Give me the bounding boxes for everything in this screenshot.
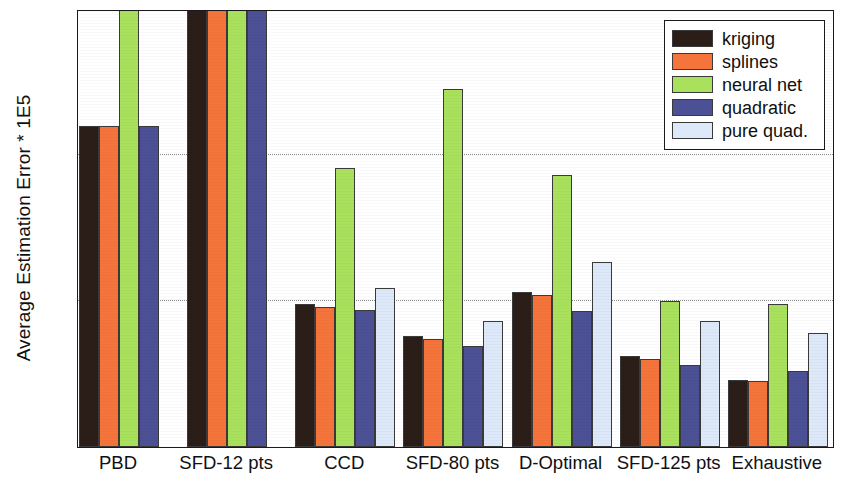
bar	[640, 359, 660, 447]
bar	[423, 339, 443, 447]
legend-swatch	[672, 76, 713, 93]
bar	[355, 310, 375, 447]
x-tick-label: SFD-80 pts	[406, 452, 500, 474]
bar	[483, 321, 503, 447]
bar-chart-figure: Average Estimation Error * 1E5 00.511.5 …	[0, 0, 842, 477]
bar	[99, 126, 119, 447]
bar	[79, 126, 99, 447]
bar	[808, 333, 828, 447]
legend-label: kriging	[722, 30, 775, 48]
legend: krigingsplinesneural netquadraticpure qu…	[664, 20, 825, 150]
bar	[680, 365, 700, 447]
x-tick-label: SFD-125 pts	[617, 452, 721, 474]
bar	[187, 10, 207, 447]
bar	[335, 168, 355, 447]
legend-swatch	[672, 99, 713, 116]
x-tick-label: D-Optimal	[519, 452, 602, 474]
bar	[620, 356, 640, 447]
bar	[572, 311, 592, 447]
bar	[512, 292, 532, 447]
bar	[552, 175, 572, 447]
legend-swatch	[672, 122, 713, 139]
bar	[748, 381, 768, 447]
bar	[768, 304, 788, 447]
bar	[660, 301, 680, 447]
bar	[375, 288, 395, 447]
legend-item: quadratic	[672, 96, 817, 119]
legend-label: quadratic	[722, 99, 796, 117]
bar	[700, 321, 720, 447]
bar	[403, 336, 423, 447]
legend-item: splines	[672, 50, 817, 73]
legend-swatch	[672, 30, 713, 47]
y-axis-title: Average Estimation Error * 1E5	[13, 73, 35, 383]
legend-label: neural net	[722, 76, 802, 94]
bar	[532, 295, 552, 447]
x-tick-label: SFD-12 pts	[179, 452, 273, 474]
x-tick-label: CCD	[324, 452, 364, 474]
bar	[139, 126, 159, 447]
bar	[295, 304, 315, 447]
legend-item: pure quad.	[672, 119, 817, 142]
legend-label: pure quad.	[722, 122, 808, 140]
legend-item: neural net	[672, 73, 817, 96]
bar	[227, 10, 247, 447]
x-tick-label: Exhaustive	[732, 452, 823, 474]
bar	[207, 10, 227, 447]
legend-item: kriging	[672, 27, 817, 50]
bar	[443, 89, 463, 447]
bar	[119, 10, 139, 447]
bar	[315, 307, 335, 447]
x-tick-label: PBD	[99, 452, 137, 474]
legend-swatch	[672, 53, 713, 70]
legend-label: splines	[722, 53, 778, 71]
bar	[247, 10, 267, 447]
bar	[463, 346, 483, 447]
bar	[592, 262, 612, 447]
bar	[728, 380, 748, 447]
bar	[788, 371, 808, 447]
